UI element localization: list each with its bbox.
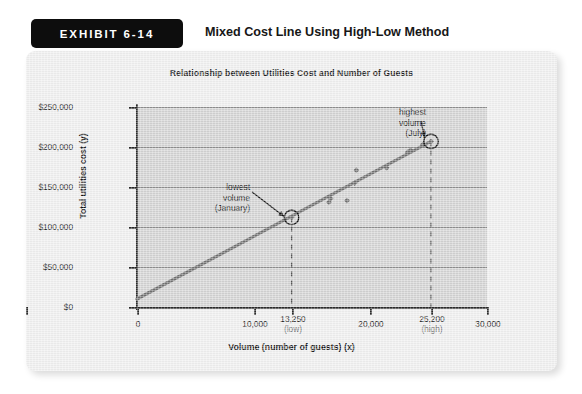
y-tick-label-150000: $150,000	[7, 182, 73, 192]
annotation-lowest-volume: lowest volume (January)	[164, 182, 250, 214]
annotation-lowest-line-1: lowest	[226, 182, 250, 192]
y-tick-label-50000: $50,000	[7, 262, 73, 272]
x-tick-20000	[370, 307, 372, 315]
exhibit-badge-label: EXHIBIT 6-14	[60, 28, 154, 40]
exhibit-badge: EXHIBIT 6-14	[31, 19, 183, 48]
annotation-highest-volume: highest volume (July)	[348, 107, 426, 139]
x-tick-30000	[487, 307, 489, 315]
annotation-lowest-line-3: (January)	[215, 203, 250, 213]
gridline-50000	[137, 267, 487, 268]
x-tick-label-20000: 20,000	[336, 319, 406, 329]
x-tick-label-0-text: 0	[136, 319, 141, 329]
x-tick-label-13250-text: 13,250	[280, 314, 305, 324]
y-tick-0	[129, 307, 137, 309]
x-tick-label-20000-text: 20,000	[358, 319, 383, 329]
gridline-200000	[137, 147, 487, 148]
y-axis-line	[136, 104, 138, 310]
x-tick-label-13250: 13,250 (low)	[258, 314, 328, 334]
exhibit-page: Relationship between Utilities Cost and …	[0, 0, 582, 394]
gridline-100000	[137, 227, 487, 228]
y-tick-label-0: $0	[7, 302, 73, 312]
x-axis-line	[134, 307, 489, 309]
y-tick-200000	[129, 147, 137, 149]
y-tick-label-200000: $200,000	[7, 142, 73, 152]
y-axis-title: Total utilities cost (y)	[78, 101, 88, 251]
chart-subtitle: Relationship between Utilities Cost and …	[26, 68, 557, 78]
exhibit-card: Relationship between Utilities Cost and …	[26, 51, 557, 371]
y-tick-100000	[129, 227, 137, 229]
exhibit-title: Mixed Cost Line Using High-Low Method	[205, 25, 449, 39]
x-tick-label-30000: 30,000	[453, 319, 523, 329]
x-axis-title: Volume (number of guests) (x)	[26, 342, 557, 352]
y-tick-50000	[129, 267, 137, 269]
y-tick-150000	[129, 187, 137, 189]
x-tick-label-13250-sub: (low)	[258, 324, 328, 334]
annotation-highest-line-1: highest	[399, 107, 426, 117]
y-tick-label-100000: $100,000	[7, 222, 73, 232]
annotation-highest-line-2: volume	[399, 118, 426, 128]
x-tick-label-30000-text: 30,000	[475, 319, 500, 329]
annotation-lowest-line-2: volume	[223, 193, 250, 203]
annotation-highest-line-3: (July)	[406, 128, 426, 138]
x-tick-spacer	[26, 307, 28, 315]
gridline-250000	[137, 107, 487, 108]
x-tick-label-25200-text: 25,200	[419, 314, 444, 324]
y-tick-250000	[129, 107, 137, 109]
y-tick-label-250000: $250,000	[7, 102, 73, 112]
x-tick-0	[137, 307, 139, 315]
x-tick-10000	[254, 307, 256, 315]
x-tick-label-0: 0	[103, 319, 173, 329]
